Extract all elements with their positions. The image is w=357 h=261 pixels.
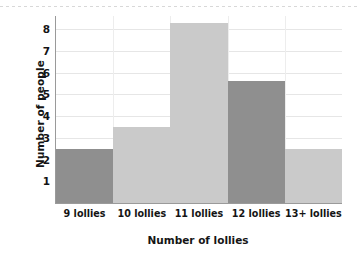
- y-axis-tick-label: 3: [43, 132, 50, 144]
- bar: [285, 149, 342, 203]
- bar-chart-figure: Number of people 123456789 lollies10 lol…: [0, 0, 357, 261]
- y-axis-tick-label: 2: [43, 154, 50, 166]
- x-axis-tick-label: 9 lollies: [64, 208, 106, 219]
- x-axis-tick-label: 11 lollies: [175, 208, 224, 219]
- y-axis-tick-label: 6: [43, 67, 50, 79]
- bar: [228, 81, 285, 203]
- bar: [170, 23, 227, 203]
- bar: [113, 127, 170, 203]
- y-axis-tick-label: 4: [43, 110, 50, 122]
- x-axis-title: Number of lollies: [55, 234, 341, 246]
- x-axis-tick-label: 13+ lollies: [285, 208, 342, 219]
- x-axis-tick-label: 10 lollies: [117, 208, 166, 219]
- y-axis-tick-label: 1: [43, 175, 50, 187]
- y-axis-tick-label: 7: [43, 45, 50, 57]
- y-axis-tick-label: 8: [43, 23, 50, 35]
- y-axis-tick-label: 5: [43, 88, 50, 100]
- bar: [56, 149, 113, 203]
- plot-area: 123456789 lollies10 lollies11 lollies12 …: [55, 16, 342, 204]
- x-axis-tick-label: 12 lollies: [232, 208, 281, 219]
